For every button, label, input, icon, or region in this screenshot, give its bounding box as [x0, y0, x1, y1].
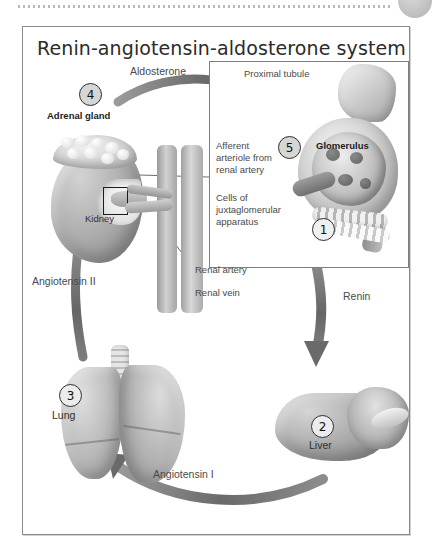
adrenal-bump [117, 149, 129, 160]
gray-circle-mark [398, 0, 432, 18]
label-proximal-tubule: Proximal tubule [244, 68, 309, 80]
dotted-top-rule [18, 5, 392, 8]
proximal-tubule-shape [338, 64, 396, 122]
glomerulus-inset-box: Proximal tubule Glomerulus Afferent arte… [209, 61, 409, 268]
lung-illustration [61, 345, 187, 485]
adrenal-bump [75, 135, 90, 147]
label-liver: Liver [309, 439, 332, 451]
kidney-detail-callout-box [103, 187, 128, 215]
step-marker-1[interactable]: 1 [312, 218, 335, 241]
figure-frame: Renin-angiotensin-aldosterone system [22, 26, 410, 535]
adrenal-bump [84, 147, 98, 159]
capillary-loop [350, 152, 363, 164]
adrenal-bump [101, 153, 114, 164]
label-glomerulus: Glomerulus [316, 140, 369, 152]
label-lung: Lung [52, 409, 75, 421]
capillary-loop [338, 174, 353, 186]
lung-right [119, 365, 185, 483]
adrenal-bump [61, 137, 74, 148]
label-renal-vein: Renal vein [195, 287, 240, 299]
label-angiotensin-2: Angiotensin II [32, 275, 96, 287]
label-angiotensin-1: Angiotensin I [153, 468, 214, 480]
label-renin: Renin [343, 290, 370, 302]
label-renal-artery: Renal artery [195, 264, 247, 276]
step-marker-4[interactable]: 4 [79, 83, 102, 106]
step-marker-2[interactable]: 2 [311, 415, 334, 438]
capillary-loop [360, 178, 371, 189]
label-afferent-arteriole: Afferent arteriole from renal artery [216, 140, 272, 176]
label-kidney: Kidney [85, 213, 114, 225]
aorta [157, 145, 177, 313]
liver-illustration [275, 387, 411, 467]
label-jga-cells: Cells of juxtaglomerular apparatus [216, 192, 281, 228]
step-marker-3[interactable]: 3 [59, 384, 82, 407]
label-adrenal-gland: Adrenal gland [47, 110, 110, 122]
adrenal-bump [67, 148, 80, 159]
label-aldosterone: Aldosterone [130, 65, 186, 77]
step-marker-5[interactable]: 5 [278, 136, 301, 159]
